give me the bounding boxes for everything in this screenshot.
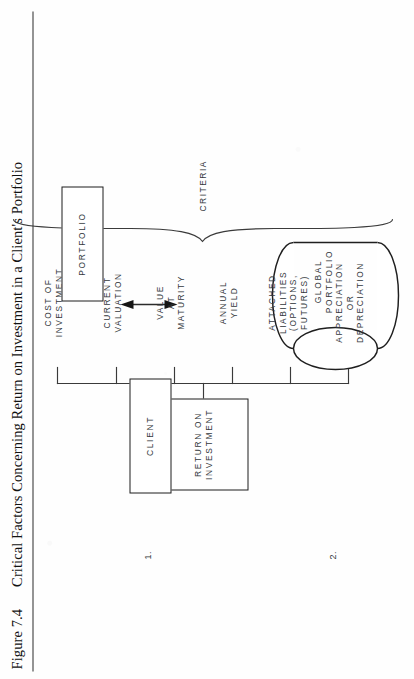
- factor-label-current-valuation: CURRENT VALUATION: [101, 243, 122, 361]
- client-label: CLIENT: [145, 379, 156, 492]
- figure-title: Critical Factors Concerning Return on In…: [8, 161, 24, 586]
- figure-number: Figure 7.4: [8, 608, 24, 669]
- return-on-investment-label: RETURN ON INVESTMENT: [192, 399, 214, 489]
- factor-label-attached-liabilities: ATTACHED LIABILITIES (OPTIONS, FUTURES): [266, 243, 308, 361]
- criteria-label: CRITERIA: [197, 121, 208, 211]
- factor-label-annual-yield: ANNUAL YIELD: [217, 243, 238, 361]
- entity-marker-2: 2.: [327, 551, 337, 559]
- factor-label-appreciation-or-depreciation: APPRECIATION OR DEPRECIATION: [333, 243, 365, 361]
- return-on-investment-box[interactable]: RETURN ON INVESTMENT: [158, 398, 248, 490]
- figure-canvas: Figure 7.4Critical Factors Concerning Re…: [0, 0, 414, 679]
- caption-rule: [32, 11, 33, 671]
- portfolio-label: PORTFOLIO: [77, 187, 88, 300]
- entity-marker-1: 1.: [142, 551, 152, 559]
- factor-label-value-at-maturity: VALUE AT MATURITY: [154, 243, 186, 361]
- factor-label-cost-of-investment: COST OF INVESTMENT: [42, 243, 63, 361]
- global-portfolio-label: GLOBAL PORTFOLIO: [312, 231, 334, 331]
- client-box[interactable]: CLIENT: [129, 378, 171, 493]
- portfolio-box[interactable]: PORTFOLIO: [61, 186, 103, 301]
- figure-page: Figure 7.4Critical Factors Concerning Re…: [0, 0, 414, 679]
- figure-caption: Figure 7.4Critical Factors Concerning Re…: [8, 161, 25, 669]
